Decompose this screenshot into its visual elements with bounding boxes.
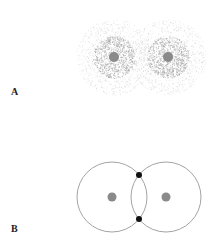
nucleus-1 [109,52,119,62]
panel-b-orbit-model [77,162,201,232]
covalent-bond-diagram [0,0,213,250]
shared-electron-1 [136,172,142,178]
panel-label-a: A [11,86,18,97]
electron-cloud [77,20,207,96]
nucleus-2 [163,52,173,62]
shared-electron-2 [136,216,142,222]
panel-a-electron-cloud [77,20,207,96]
nucleus-1 [108,193,117,202]
nucleus-2 [162,193,171,202]
panel-label-b: B [11,223,18,234]
